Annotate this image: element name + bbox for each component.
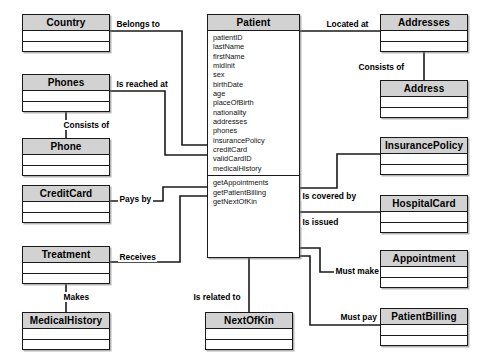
class-box-patient[interactable]: PatientpatientIDlastNamefirstNamemidInit… [207,14,300,258]
attributes-compartment-nextofkin [206,329,292,340]
class-box-insurancepolicy[interactable]: InsurancePolicy [380,137,468,175]
operations-compartment-patientbilling [381,336,467,344]
class-box-addresses[interactable]: Addresses [380,14,468,52]
relationship-label-is-related-to: Is related to [192,292,242,302]
attribute-item: medicalHistory [213,164,299,173]
class-name-phones: Phones [23,75,109,91]
class-box-medicalhistory[interactable]: MedicalHistory [22,312,110,350]
class-name-appointment: Appointment [381,251,467,267]
operations-compartment-appointment [381,278,467,286]
relationship-label-belongs-to: Belongs to [115,19,161,29]
relationship-label-located-at: Located at [325,19,370,29]
relationship-label-is-issued: Is issued [301,217,340,227]
attributes-compartment-hospitalcard [381,212,467,223]
operations-compartment-hospitalcard [381,223,467,231]
attributes-compartment-medicalhistory [23,329,109,340]
class-name-country: Country [23,15,109,31]
relationship-label-makes: Makes [62,292,91,302]
relationship-label-is-reached-at: Is reached at [115,79,169,89]
attribute-item: phones [213,126,299,135]
class-box-address[interactable]: Address [380,80,468,118]
attribute-item: lastName [213,42,299,51]
attribute-item: midInit [213,61,299,70]
attributes-compartment-patient: patientIDlastNamefirstNamemidInitsexbirt… [208,31,299,176]
operations-compartment-addresses [381,42,467,50]
class-box-hospitalcard[interactable]: HospitalCard [380,195,468,233]
operation-item: getNextOfKin [213,197,299,206]
class-name-patient: Patient [208,15,299,31]
attribute-item: validCardID [213,154,299,163]
relationship-label-must-make: Must make [334,266,380,276]
operations-compartment-patient: getAppointmentsgetPatientBillinggetNextO… [208,176,299,208]
attribute-item: nationality [213,108,299,117]
relationship-label-pays-by: Pays by [118,194,153,204]
class-name-address: Address [381,81,467,97]
class-name-hospitalcard: HospitalCard [381,196,467,212]
attributes-compartment-address [381,97,467,108]
attributes-compartment-patientbilling [381,325,467,336]
attribute-item: firstName [213,52,299,61]
attributes-compartment-creditcard [23,202,109,213]
operations-compartment-medicalhistory [23,340,109,348]
attributes-compartment-phone [23,155,109,166]
relationship-label-consists-of-addresses: Consists of [357,62,406,72]
operations-compartment-insurancepolicy [381,165,467,173]
class-name-treatment: Treatment [23,247,109,263]
class-name-medicalhistory: MedicalHistory [23,313,109,329]
attributes-compartment-insurancepolicy [381,154,467,165]
attribute-item: patientID [213,33,299,42]
operations-compartment-country [23,42,109,50]
attribute-item: birthDate [213,80,299,89]
connector-is-reached-at [110,91,207,155]
attribute-item: age [213,89,299,98]
attributes-compartment-country [23,31,109,42]
class-name-creditcard: CreditCard [23,186,109,202]
class-box-patientbilling[interactable]: PatientBilling [380,308,468,346]
relationship-label-must-pay: Must pay [339,312,378,322]
operation-item: getAppointments [213,178,299,187]
relationship-label-receives: Receives [118,252,157,262]
class-box-phones[interactable]: Phones [22,74,110,112]
class-name-patientbilling: PatientBilling [381,309,467,325]
operations-compartment-address [381,108,467,116]
operations-compartment-phone [23,166,109,174]
attribute-item: creditCard [213,145,299,154]
operations-compartment-nextofkin [206,340,292,348]
class-box-nextofkin[interactable]: NextOfKin [205,312,293,350]
class-box-phone[interactable]: Phone [22,138,110,176]
relationship-label-consists-of-phones: Consists of [62,120,111,130]
class-box-country[interactable]: Country [22,14,110,52]
attribute-item: insurancePolicy [213,136,299,145]
attributes-compartment-treatment [23,263,109,274]
class-name-addresses: Addresses [381,15,467,31]
attribute-item: sex [213,70,299,79]
operation-item: getPatientBilling [213,188,299,197]
operations-compartment-phones [23,102,109,110]
uml-class-diagram: CountryPhonesPhoneCreditCardTreatmentMed… [0,0,480,360]
connector-is-covered-by [300,154,380,188]
operations-compartment-treatment [23,274,109,282]
class-box-creditcard[interactable]: CreditCard [22,185,110,223]
class-name-insurancepolicy: InsurancePolicy [381,138,467,154]
relationship-label-is-covered-by: Is covered by [301,191,358,201]
attribute-item: placeOfBirth [213,98,299,107]
attributes-compartment-phones [23,91,109,102]
class-name-phone: Phone [23,139,109,155]
attributes-compartment-addresses [381,31,467,42]
class-box-treatment[interactable]: Treatment [22,246,110,284]
class-name-nextofkin: NextOfKin [206,313,292,329]
class-box-appointment[interactable]: Appointment [380,250,468,288]
operations-compartment-creditcard [23,213,109,221]
attributes-compartment-appointment [381,267,467,278]
attribute-item: addresses [213,117,299,126]
